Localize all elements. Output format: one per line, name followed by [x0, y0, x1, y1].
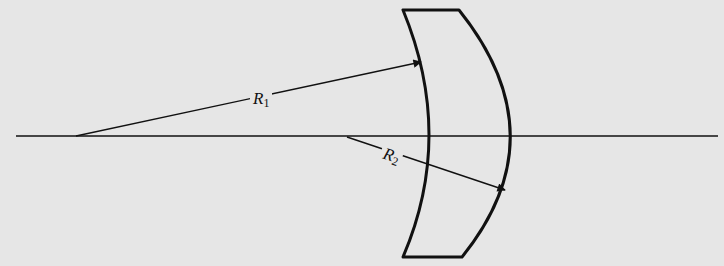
- radius-r1-label: R1: [250, 90, 272, 109]
- radius-r1-arrow: [76, 62, 421, 136]
- r1-main: R: [253, 89, 263, 108]
- r1-sub: 1: [263, 96, 269, 110]
- lens-diagram: [0, 0, 724, 266]
- diagram-canvas: R1 R2: [0, 0, 724, 266]
- meniscus-lens: [403, 10, 510, 257]
